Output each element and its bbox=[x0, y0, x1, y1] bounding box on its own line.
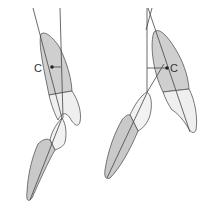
right-lower-long-axis bbox=[107, 93, 147, 178]
right-lower-tooth bbox=[105, 92, 152, 179]
left-lower-root bbox=[27, 139, 55, 200]
right-c-label: C bbox=[170, 62, 178, 74]
right-panel: C bbox=[105, 8, 197, 179]
right-upper-tooth: C bbox=[146, 8, 197, 133]
left-upper-tooth: C bbox=[33, 8, 81, 125]
left-upper-root bbox=[40, 33, 72, 95]
left-c-label: C bbox=[34, 62, 42, 74]
left-panel: C bbox=[27, 8, 81, 200]
left-center-of-resistance-point bbox=[50, 65, 54, 69]
left-lower-tooth bbox=[27, 118, 66, 200]
right-center-of-resistance-point bbox=[165, 66, 169, 70]
tooth-inclination-diagram: C C bbox=[0, 0, 205, 212]
left-upper-crown bbox=[49, 91, 81, 125]
right-upper-crown bbox=[163, 89, 197, 133]
